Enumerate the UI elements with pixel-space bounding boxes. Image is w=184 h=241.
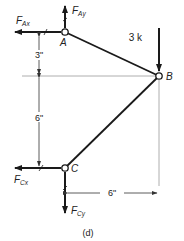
joint-c-pin-icon: [62, 165, 68, 171]
joint-label-b: B: [166, 71, 173, 82]
dimension-vertical: 3" 6": [28, 37, 50, 166]
label-fax: FAx: [16, 15, 30, 27]
joint-b-pin-icon: [156, 73, 162, 79]
label-fcx: FCx: [14, 174, 29, 186]
joint-label-c: C: [71, 163, 79, 174]
force-fay: FAy: [63, 5, 86, 28]
truss-members: [65, 32, 159, 168]
joint-a-pin-icon: [62, 29, 68, 35]
dimension-horizontal: 6": [68, 187, 157, 198]
force-fcy: FCy: [63, 172, 86, 218]
member-cb: [65, 76, 159, 168]
joint-label-a: A: [59, 37, 67, 48]
dimension-label-6in-vertical: 6": [35, 113, 43, 123]
label-fcy: FCy: [71, 205, 86, 218]
force-fcx: FCx: [14, 165, 61, 186]
dimension-label-3in: 3": [35, 50, 43, 60]
free-body-diagram: FAx FAy 3 k FCx FCy 3" 6" 6": [0, 0, 184, 241]
member-ab: [65, 32, 159, 76]
reference-lines: [22, 76, 159, 186]
force-fax: FAx: [15, 15, 61, 35]
figure-caption: (d): [83, 228, 94, 238]
label-fay: FAy: [72, 5, 86, 18]
dimension-label-6in-horizontal: 6": [108, 188, 116, 198]
joints: A B C: [59, 29, 173, 174]
label-load: 3 k: [129, 32, 143, 43]
